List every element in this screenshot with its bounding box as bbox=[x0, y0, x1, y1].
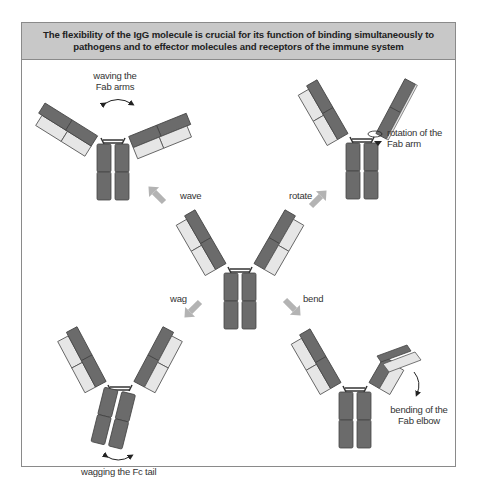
igg-bend bbox=[289, 329, 421, 448]
wave-caption: waving the Fab arms bbox=[85, 70, 145, 92]
wag-caption: wagging the Fc tail bbox=[81, 466, 156, 477]
igg-wag bbox=[56, 327, 184, 449]
wave-label: wave bbox=[180, 190, 201, 201]
wag-double-arrow-icon bbox=[106, 456, 131, 460]
bend-caption-line-1: bending of the bbox=[384, 404, 454, 415]
wave-caption-line-1: waving the bbox=[85, 70, 145, 81]
bend-curved-arrow-icon bbox=[414, 372, 419, 394]
bend-label: bend bbox=[303, 293, 323, 304]
rotate-caption-line-1: rotation of the bbox=[387, 127, 442, 138]
bend-caption: bending of the Fab elbow bbox=[384, 404, 454, 426]
rotate-caption: rotation of the Fab arm bbox=[387, 127, 442, 149]
bend-arrow-icon bbox=[280, 295, 305, 320]
wag-label: wag bbox=[170, 293, 187, 304]
rotate-label: rotate bbox=[289, 190, 312, 201]
rotate-caption-line-2: Fab arm bbox=[387, 138, 442, 149]
wave-arrow-icon bbox=[143, 181, 168, 206]
wave-caption-line-2: Fab arms bbox=[85, 81, 145, 92]
igg-wave bbox=[32, 103, 195, 200]
bend-caption-line-2: Fab elbow bbox=[384, 415, 454, 426]
wave-double-arrow-icon bbox=[104, 100, 132, 105]
